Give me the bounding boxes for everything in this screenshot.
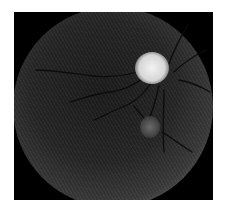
optic-disc xyxy=(135,52,169,84)
lesion-spot xyxy=(140,116,160,138)
fundus-frame xyxy=(14,12,213,200)
blood-vessels xyxy=(14,12,213,200)
